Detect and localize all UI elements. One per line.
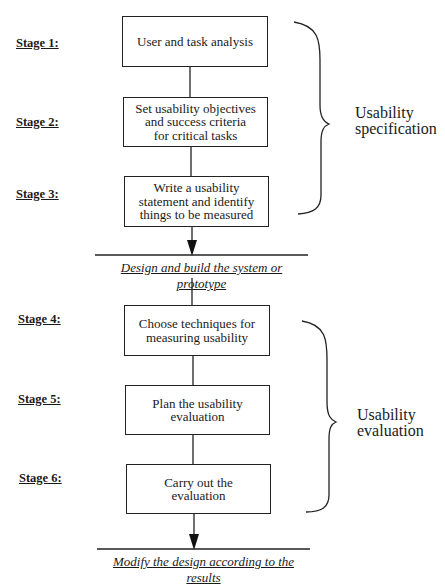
stage-6-label: Stage 6: [19, 471, 62, 486]
stage-5-box: Plan the usability evaluation [125, 385, 270, 435]
stage-2-box: Set usability objectives and success cri… [123, 97, 268, 147]
phase-design-build: Design and build the system or prototype [95, 260, 308, 292]
stage-5-label: Stage 5: [18, 392, 61, 407]
group-usability-specification: Usability specification [355, 105, 437, 137]
stage-1-box: User and task analysis [122, 16, 268, 67]
stage-4-label: Stage 4: [18, 312, 61, 327]
stage-3-box: Write a usability statement and identify… [124, 176, 269, 227]
stage-2-label: Stage 2: [16, 115, 59, 130]
stage-3-label: Stage 3: [16, 187, 59, 202]
stage-6-box: Carry out the evaluation [126, 464, 271, 514]
stage-1-label: Stage 1: [16, 36, 59, 51]
phase-modify-design: Modify the design according to the resul… [97, 554, 310, 584]
group-usability-evaluation: Usability evaluation [357, 407, 424, 439]
stage-4-box: Choose techniques for measuring usabilit… [124, 305, 270, 356]
